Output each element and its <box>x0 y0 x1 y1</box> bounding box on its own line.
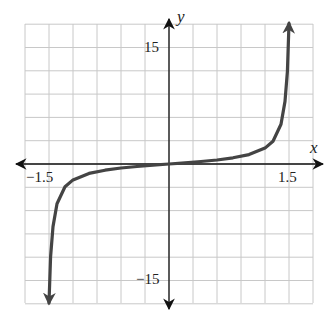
chart: y x 15 −15 −1.5 1.5 <box>0 0 333 310</box>
y-max-tick-label: 15 <box>144 39 159 55</box>
x-min-tick-label: −1.5 <box>26 169 53 185</box>
x-axis-label: x <box>309 138 318 157</box>
x-max-tick-label: 1.5 <box>278 169 297 185</box>
y-min-tick-label: −15 <box>136 271 159 287</box>
y-axis-label: y <box>175 7 185 26</box>
